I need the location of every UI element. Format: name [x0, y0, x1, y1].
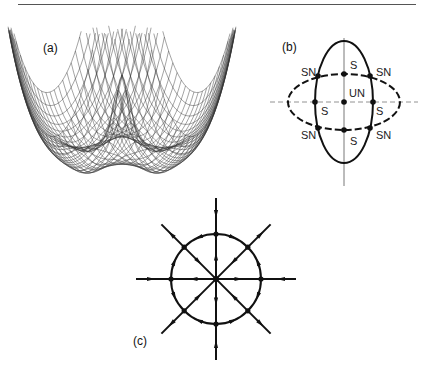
- panel-c-label: (c): [133, 334, 147, 348]
- label-un: UN: [349, 87, 365, 99]
- label-sn-lr: SN: [376, 129, 391, 141]
- fixed-point-bottom: [341, 127, 347, 133]
- panel-a: (a): [8, 26, 236, 174]
- label-s-right: S: [376, 105, 383, 117]
- fixed-point-ur: [367, 73, 373, 79]
- fixed-point-right: [370, 99, 376, 105]
- label-s-left: S: [321, 105, 328, 117]
- label-s-bottom: S: [350, 135, 357, 147]
- phase-portrait: [136, 198, 296, 360]
- label-sn-ul: SN: [301, 66, 316, 78]
- label-sn-ll: SN: [301, 129, 316, 141]
- fixed-point-lr: [367, 125, 373, 131]
- fixed-point-left: [312, 99, 318, 105]
- panel-a-label: (a): [43, 41, 58, 55]
- figure-canvas: (a) (b) S S S S UN SN SN SN SN (c): [0, 0, 432, 377]
- label-sn-ur: SN: [376, 66, 391, 78]
- fixed-point-center: [341, 99, 347, 105]
- panel-b: (b) S S S S UN SN SN SN SN: [270, 38, 418, 186]
- panel-c: (c): [133, 198, 296, 360]
- panel-b-label: (b): [282, 40, 297, 54]
- label-s-top: S: [350, 59, 357, 71]
- fixed-point-top: [341, 71, 347, 77]
